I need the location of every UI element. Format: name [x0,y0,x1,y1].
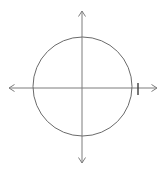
figure-canvas: Circle centered at the origin on a coord… [0,0,164,171]
y-axis [79,11,86,163]
x-axis [9,85,157,92]
coordinate-plane-diagram: Circle centered at the origin on a coord… [0,0,164,171]
